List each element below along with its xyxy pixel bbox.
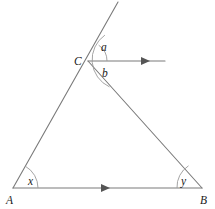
triangle-angle-figure: A B C a b x y xyxy=(0,0,215,209)
angle-label-b: b xyxy=(102,67,108,79)
vertex-label-a: A xyxy=(5,194,14,206)
arrowhead-on-ab-icon xyxy=(101,184,110,192)
geometry-diagram-canvas: A B C a b x y xyxy=(0,0,215,209)
vertex-label-c: C xyxy=(74,55,82,67)
arrowhead-on-ray-icon xyxy=(141,57,150,65)
vertex-label-b: B xyxy=(200,194,207,206)
angle-label-y: y xyxy=(180,175,187,188)
line-segment-ac-extended xyxy=(13,2,118,188)
angle-label-x: x xyxy=(27,175,34,187)
angle-label-a: a xyxy=(101,41,107,53)
